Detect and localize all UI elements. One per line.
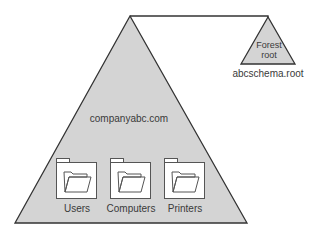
folder-icon	[164, 162, 205, 199]
container-label: Computers	[107, 203, 156, 214]
folder-tab	[56, 158, 70, 162]
forest-root-label-line1: Forest	[256, 40, 282, 50]
trust-connector-line	[130, 16, 268, 18]
folder-icon	[110, 162, 151, 199]
container-label: Printers	[168, 203, 202, 214]
forest-root-caption: abcschema.root	[232, 68, 303, 79]
domain-label: companyabc.com	[90, 113, 168, 124]
folder-icon	[56, 162, 97, 199]
folder-tab	[164, 158, 178, 162]
forest-root-label-line2: root	[261, 50, 277, 60]
folder-tab	[110, 158, 124, 162]
container-label: Users	[64, 203, 90, 214]
forest-root-label: Forest root	[256, 40, 282, 60]
